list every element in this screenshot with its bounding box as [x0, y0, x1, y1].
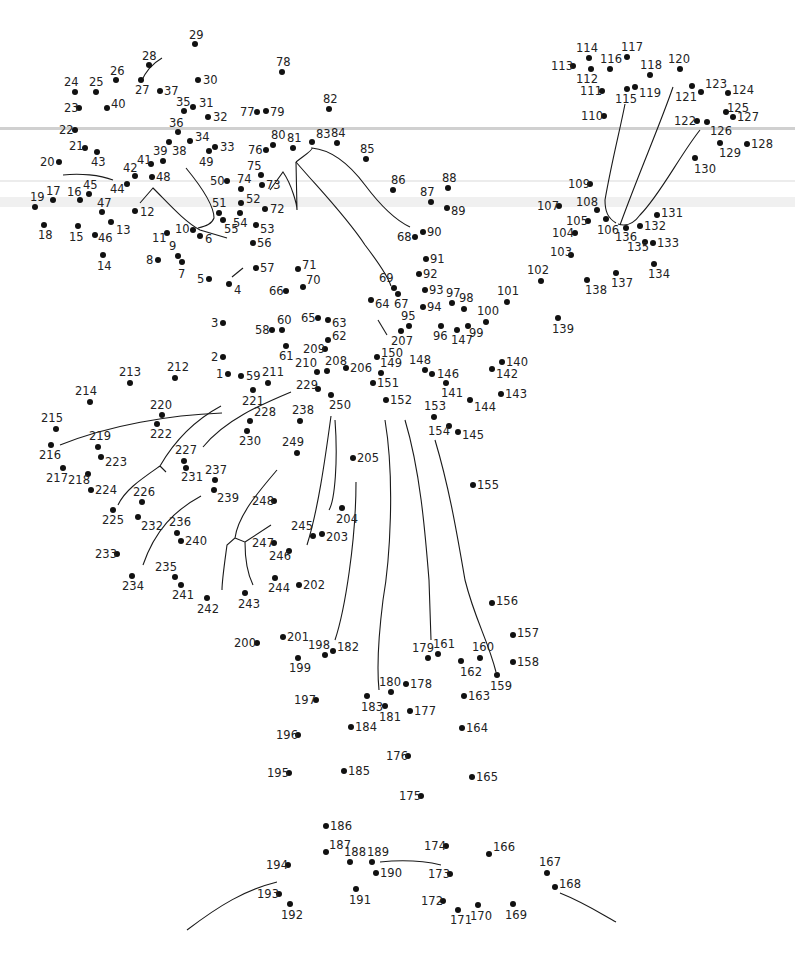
dot-237[interactable] [212, 477, 218, 483]
dot-34[interactable] [187, 138, 193, 144]
dot-31[interactable] [190, 104, 196, 110]
dot-84[interactable] [334, 140, 340, 146]
dot-101[interactable] [504, 299, 510, 305]
dot-93[interactable] [422, 287, 428, 293]
dot-139[interactable] [555, 315, 561, 321]
dot-144[interactable] [467, 397, 473, 403]
dot-114[interactable] [586, 55, 592, 61]
dot-9[interactable] [175, 253, 181, 259]
dot-159[interactable] [494, 672, 500, 678]
dot-170[interactable] [475, 902, 481, 908]
dot-132[interactable] [637, 223, 643, 229]
dot-155[interactable] [470, 482, 476, 488]
dot-238[interactable] [297, 418, 303, 424]
dot-124[interactable] [725, 90, 731, 96]
dot-2[interactable] [220, 354, 226, 360]
dot-185[interactable] [341, 768, 347, 774]
dot-179[interactable] [425, 655, 431, 661]
dot-64[interactable] [368, 297, 374, 303]
dot-178[interactable] [403, 681, 409, 687]
dot-13[interactable] [108, 219, 114, 225]
dot-78[interactable] [279, 69, 285, 75]
dot-203[interactable] [319, 531, 325, 537]
dot-188[interactable] [347, 859, 353, 865]
dot-160[interactable] [477, 655, 483, 661]
dot-19[interactable] [32, 204, 38, 210]
dot-191[interactable] [353, 886, 359, 892]
dot-140[interactable] [499, 359, 505, 365]
dot-205[interactable] [350, 455, 356, 461]
dot-39[interactable] [160, 158, 166, 164]
dot-32[interactable] [205, 114, 211, 120]
dot-213[interactable] [127, 380, 133, 386]
dot-100[interactable] [483, 319, 489, 325]
dot-121[interactable] [689, 83, 695, 89]
dot-133[interactable] [650, 240, 656, 246]
dot-243[interactable] [242, 590, 248, 596]
dot-198[interactable] [322, 652, 328, 658]
dot-163[interactable] [461, 693, 467, 699]
dot-162[interactable] [458, 658, 464, 664]
dot-117[interactable] [624, 54, 630, 60]
dot-146[interactable] [429, 371, 435, 377]
dot-52[interactable] [238, 200, 244, 206]
dot-184[interactable] [348, 724, 354, 730]
dot-116[interactable] [607, 66, 613, 72]
dot-24[interactable] [72, 89, 78, 95]
dot-152[interactable] [383, 397, 389, 403]
dot-59[interactable] [238, 373, 244, 379]
dot-118[interactable] [647, 72, 653, 78]
dot-20[interactable] [56, 159, 62, 165]
dot-94[interactable] [420, 304, 426, 310]
dot-212[interactable] [172, 375, 178, 381]
dot-44[interactable] [124, 181, 130, 187]
dot-51[interactable] [216, 210, 222, 216]
dot-177[interactable] [407, 708, 413, 714]
dot-165[interactable] [469, 774, 475, 780]
dot-166[interactable] [486, 851, 492, 857]
dot-30[interactable] [195, 77, 201, 83]
dot-202[interactable] [296, 582, 302, 588]
dot-86[interactable] [390, 187, 396, 193]
dot-82[interactable] [326, 106, 332, 112]
dot-14[interactable] [100, 252, 106, 258]
dot-10[interactable] [190, 227, 196, 233]
dot-220[interactable] [159, 412, 165, 418]
dot-245[interactable] [310, 533, 316, 539]
dot-69[interactable] [391, 285, 397, 291]
dot-48[interactable] [149, 174, 155, 180]
dot-235[interactable] [172, 574, 178, 580]
dot-164[interactable] [459, 725, 465, 731]
dot-214[interactable] [87, 399, 93, 405]
dot-15[interactable] [75, 223, 81, 229]
dot-190[interactable] [373, 870, 379, 876]
dot-208[interactable] [324, 368, 330, 374]
dot-169[interactable] [510, 901, 516, 907]
dot-74[interactable] [238, 186, 244, 192]
dot-37[interactable] [157, 88, 163, 94]
dot-57[interactable] [253, 265, 259, 271]
dot-123[interactable] [698, 89, 704, 95]
dot-50[interactable] [224, 178, 230, 184]
dot-130[interactable] [692, 155, 698, 161]
dot-49[interactable] [206, 148, 212, 154]
dot-60[interactable] [279, 327, 285, 333]
dot-161[interactable] [435, 651, 441, 657]
dot-56[interactable] [250, 240, 256, 246]
dot-102[interactable] [538, 278, 544, 284]
dot-92[interactable] [416, 271, 422, 277]
dot-77[interactable] [254, 109, 260, 115]
dot-249[interactable] [294, 450, 300, 456]
dot-85[interactable] [363, 156, 369, 162]
dot-25[interactable] [93, 89, 99, 95]
dot-145[interactable] [455, 429, 461, 435]
dot-182[interactable] [330, 648, 336, 654]
dot-106[interactable] [603, 216, 609, 222]
dot-97[interactable] [449, 300, 455, 306]
dot-158[interactable] [510, 659, 516, 665]
dot-71[interactable] [295, 266, 301, 272]
dot-127[interactable] [730, 114, 736, 120]
dot-87[interactable] [428, 199, 434, 205]
dot-119[interactable] [632, 84, 638, 90]
dot-153[interactable] [431, 414, 437, 420]
